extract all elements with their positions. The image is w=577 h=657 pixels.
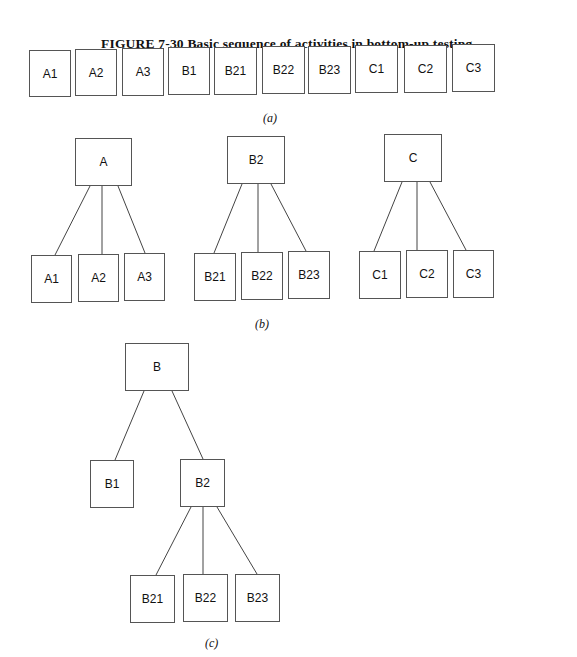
tree-c-child-c1: C1 (359, 251, 401, 299)
tree-a-root: A (75, 138, 132, 186)
tree-c-child-c2: C2 (406, 250, 448, 298)
tree-c3-child-b1: B1 (90, 460, 134, 508)
tree-c3-child-b2: B2 (180, 459, 225, 507)
tree-c3-b2-child-b22: B22 (183, 574, 228, 622)
tree-a-child-a2: A2 (78, 254, 119, 302)
tree-a-child-a1: A1 (31, 255, 72, 303)
label-c: (c) (205, 636, 218, 651)
label-b: (b) (255, 317, 269, 332)
tree-b2-child-b21: B21 (194, 253, 236, 301)
tree-a-child-a3: A3 (124, 253, 165, 301)
tree-c-root: C (384, 134, 442, 182)
tree-b2-root: B2 (227, 136, 285, 184)
tree-b2-child-b22: B22 (241, 252, 283, 300)
tree-b2-child-b23: B23 (288, 251, 330, 299)
tree-c3-b2-child-b23: B23 (235, 574, 280, 622)
tree-c-child-c3: C3 (453, 250, 494, 298)
connector-lines (0, 0, 577, 657)
tree-c3-root-b: B (125, 343, 189, 391)
tree-c3-b2-child-b21: B21 (130, 575, 175, 623)
